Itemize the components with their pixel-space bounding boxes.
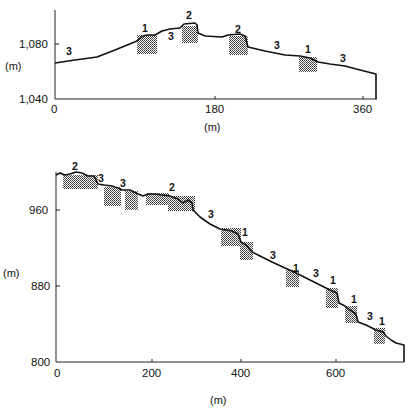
unit-label: 2 — [169, 181, 175, 193]
unit-label: 3 — [367, 310, 373, 322]
top-x-tick-360: 360 — [353, 103, 372, 115]
shaded-block — [182, 26, 198, 43]
unit-label: 1 — [305, 43, 311, 55]
bottom-x-tick-200: 200 — [142, 367, 161, 379]
top-y-tick-1040: 1,040 — [19, 93, 48, 105]
top-x-tick-180: 180 — [205, 103, 224, 115]
bottom-x-tick-600: 600 — [326, 367, 345, 379]
bottom-x-tick-400: 400 — [231, 367, 250, 379]
unit-label: 1 — [330, 274, 336, 286]
top-chart — [55, 10, 377, 99]
bottom-y-tick-800: 800 — [31, 356, 50, 368]
unit-label: 3 — [120, 177, 126, 189]
unit-label: 3 — [340, 52, 346, 64]
bottom-y-tick-960: 960 — [29, 204, 48, 216]
bottom-x-axis-unit: (m) — [210, 394, 227, 406]
unit-label: 3 — [98, 172, 104, 184]
unit-label: 3 — [313, 267, 319, 279]
shaded-block — [104, 187, 121, 206]
unit-label: 3 — [168, 30, 174, 42]
shaded-block — [299, 57, 317, 72]
top-y-tick-1080: 1,080 — [19, 38, 48, 50]
unit-label: 1 — [242, 226, 248, 238]
shaded-block — [63, 175, 98, 189]
unit-label: 1 — [351, 293, 357, 305]
unit-label: 2 — [235, 23, 241, 35]
unit-label: 1 — [379, 315, 385, 327]
top-y-axis-unit: (m) — [5, 60, 22, 72]
unit-label: 2 — [186, 9, 192, 21]
bottom-y-axis-unit: (m) — [3, 267, 20, 279]
slope-profiles-figure — [0, 0, 412, 408]
unit-label: 3 — [274, 39, 280, 51]
unit-label: 2 — [72, 160, 78, 172]
top-x-tick-0: 0 — [51, 103, 57, 115]
bottom-x-tick-0: 0 — [54, 367, 60, 379]
unit-label: 3 — [208, 208, 214, 220]
top-x-axis-unit: (m) — [204, 121, 221, 133]
unit-label: 3 — [270, 249, 276, 261]
top-profile-line — [55, 23, 376, 99]
shaded-block — [345, 306, 357, 323]
unit-label: 3 — [66, 45, 72, 57]
bottom-chart — [56, 172, 404, 362]
shaded-block — [168, 196, 195, 211]
unit-label: 1 — [293, 262, 299, 274]
unit-label: 1 — [142, 22, 148, 34]
bottom-y-tick-880: 880 — [31, 280, 50, 292]
